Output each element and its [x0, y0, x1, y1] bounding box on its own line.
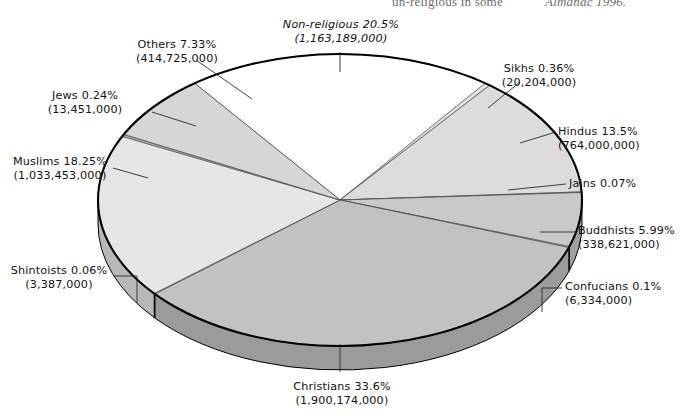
label-christians-percent: 33.6%: [354, 380, 390, 393]
label-confucians-name: Confucians: [565, 280, 628, 293]
label-hindus-count: (764,000,000): [558, 139, 680, 153]
label-jews-name: Jews: [52, 89, 78, 102]
label-hindus-percent: 13.5%: [602, 125, 638, 138]
label-jains: Jains0.07%: [569, 177, 679, 191]
label-muslims-count: (1,033,453,000): [4, 169, 116, 183]
label-others: Others7.33% (414,725,000): [112, 38, 242, 65]
label-buddhists-percent: 5.99%: [639, 224, 675, 237]
label-others-percent: 7.33%: [180, 38, 216, 51]
label-sikhs-percent: 0.36%: [538, 62, 574, 75]
label-jews-count: (13,451,000): [22, 103, 148, 117]
label-buddhists: Buddhists5.99% (338,621,000): [578, 224, 680, 251]
label-buddhists-name: Buddhists: [578, 224, 635, 237]
label-muslims: Muslims18.25% (1,033,453,000): [4, 155, 116, 182]
label-confucians-count: (6,334,000): [565, 294, 680, 308]
label-christians: Christians33.6% (1,900,174,000): [272, 380, 412, 407]
label-others-name: Others: [138, 38, 177, 51]
label-jains-name: Jains: [569, 177, 596, 190]
label-shintoists-percent: 0.06%: [71, 264, 107, 277]
label-non-religious-percent: 20.5%: [363, 18, 399, 31]
label-hindus-name: Hindus: [558, 125, 598, 138]
label-sikhs-count: (20,204,000): [480, 76, 598, 90]
pie-chart-figure: un-religious in some Almanac 1996. Non-r…: [0, 0, 680, 416]
label-christians-name: Christians: [293, 380, 350, 393]
label-muslims-name: Muslims: [13, 155, 60, 168]
label-hindus: Hindus13.5% (764,000,000): [558, 125, 680, 152]
label-shintoists: Shintoists0.06% (3,387,000): [2, 264, 116, 291]
label-non-religious-name: Non-religious: [283, 18, 359, 31]
label-jews: Jews0.24% (13,451,000): [22, 89, 148, 116]
label-jews-percent: 0.24%: [82, 89, 118, 102]
label-confucians-percent: 0.1%: [632, 280, 661, 293]
label-others-count: (414,725,000): [112, 52, 242, 66]
label-shintoists-name: Shintoists: [11, 264, 67, 277]
label-shintoists-count: (3,387,000): [2, 278, 116, 292]
label-sikhs: Sikhs0.36% (20,204,000): [480, 62, 598, 89]
label-buddhists-count: (338,621,000): [578, 238, 680, 252]
label-christians-count: (1,900,174,000): [272, 394, 412, 408]
label-sikhs-name: Sikhs: [504, 62, 534, 75]
label-non-religious-count: (1,163,189,000): [268, 32, 414, 46]
label-confucians: Confucians0.1% (6,334,000): [565, 280, 680, 307]
label-jains-percent: 0.07%: [600, 177, 636, 190]
label-non-religious: Non-religious20.5% (1,163,189,000): [268, 18, 414, 45]
label-muslims-percent: 18.25%: [64, 155, 108, 168]
